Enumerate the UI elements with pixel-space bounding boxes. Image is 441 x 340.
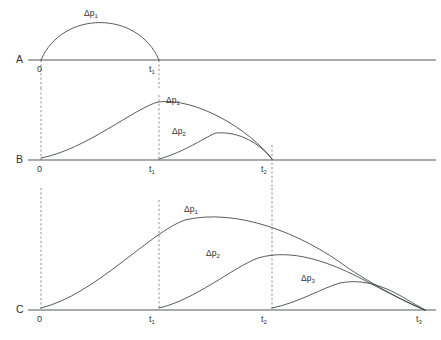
panel-c-tick-0: 0 bbox=[37, 314, 42, 324]
pressure-increment-diagram: A0t1Δp1B0t1t2Δp1Δp2C0t1t2t3Δp1Δp2Δp3 bbox=[0, 0, 441, 340]
panel-b-label-delta-p-1: Δp1 bbox=[166, 95, 180, 106]
panel-c-label-delta-p-2: Δp2 bbox=[206, 248, 220, 259]
panel-c-curve-delta-p-3 bbox=[272, 282, 425, 310]
panel-b: B0t1t2Δp1Δp2 bbox=[16, 88, 436, 188]
panel-b-curve-delta-p-1 bbox=[41, 101, 272, 159]
panel-a: A0t1Δp1 bbox=[16, 8, 436, 88]
figure-canvas: A0t1Δp1B0t1t2Δp1Δp2C0t1t2t3Δp1Δp2Δp3 bbox=[0, 0, 441, 340]
panel-c-curve-delta-p-1 bbox=[41, 217, 425, 310]
panel-c-tick-3: t3 bbox=[416, 314, 423, 325]
panel-b-tick-0: 0 bbox=[37, 164, 42, 174]
panel-b-tick-1: t1 bbox=[149, 164, 156, 175]
panel-b-tick-2: t2 bbox=[261, 164, 268, 175]
panel-c-label-delta-p-1: Δp1 bbox=[184, 204, 198, 215]
panel-b-title: B bbox=[16, 153, 23, 165]
panel-b-label-delta-p-2: Δp2 bbox=[172, 126, 186, 137]
panel-a-tick-0: 0 bbox=[37, 64, 42, 74]
panel-c-title: C bbox=[16, 303, 24, 315]
panel-a-label-delta-p-1: Δp1 bbox=[84, 8, 98, 19]
panel-c-tick-1: t1 bbox=[149, 314, 156, 325]
panel-a-tick-1: t1 bbox=[149, 64, 156, 75]
panel-c: C0t1t2t3Δp1Δp2Δp3 bbox=[16, 188, 436, 325]
panel-c-label-delta-p-3: Δp3 bbox=[301, 273, 315, 284]
panel-a-title: A bbox=[16, 53, 23, 65]
panel-a-curve-delta-p-1 bbox=[41, 23, 159, 61]
panel-c-tick-2: t2 bbox=[261, 314, 268, 325]
panel-b-curve-delta-p-2 bbox=[159, 133, 272, 159]
panel-c-curve-delta-p-2 bbox=[159, 255, 425, 310]
